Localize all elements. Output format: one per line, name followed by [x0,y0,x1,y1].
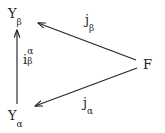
edge-label-j-beta: jβ [85,11,94,30]
node-f: F [143,56,152,72]
node-y-beta-subscript: β [17,17,22,27]
edge-label-i-script-stack: αβ [27,51,35,64]
node-y-alpha: Yα [8,107,23,126]
commutative-diagram: Yβ Yα F jβ jα iαβ [0,0,165,133]
edge-label-i-superscript: α [27,47,33,56]
edge-label-j-alpha-subscript: α [87,106,93,116]
node-y-alpha-subscript: α [17,119,23,129]
node-y-beta-base: Y [8,6,17,21]
edge-label-i-alpha-beta: iαβ [23,51,35,67]
node-y-alpha-base: Y [8,108,17,123]
edge-label-j-alpha: jα [83,94,93,113]
node-f-base: F [143,57,152,72]
edge-label-i-subscript: β [27,57,32,66]
edge-label-j-beta-subscript: β [89,23,94,33]
node-y-beta: Yβ [8,5,22,24]
